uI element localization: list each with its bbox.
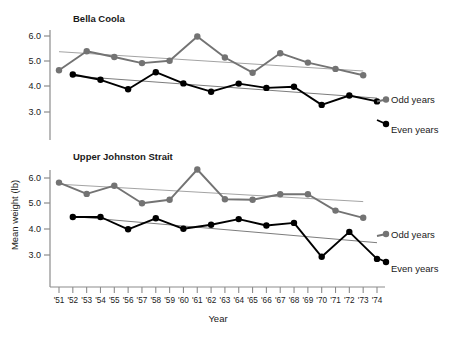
data-point <box>277 50 283 56</box>
legend-marker-odd-bottom-dot <box>383 231 389 237</box>
x-tick-label-73: '73 <box>358 296 369 305</box>
x-tick-label-70: '70 <box>316 296 327 305</box>
data-point <box>139 60 145 66</box>
data-point <box>305 59 311 65</box>
data-point <box>319 102 325 108</box>
data-point <box>332 207 338 213</box>
x-tick-label-56: '56 <box>123 296 134 305</box>
data-point <box>346 92 352 98</box>
data-point <box>97 77 103 83</box>
panel-title-bottom: Upper Johnston Strait <box>73 151 174 162</box>
y-tick-label-6: 6.0 <box>28 31 41 41</box>
data-point <box>277 191 283 197</box>
data-point <box>139 200 145 206</box>
legend-marker-even-bottom-dot <box>383 259 389 265</box>
data-point <box>84 48 90 54</box>
x-tick-label-67: '67 <box>275 296 286 305</box>
data-point <box>346 229 352 235</box>
data-point <box>208 222 214 228</box>
data-point <box>222 196 228 202</box>
y-tick-label-4-bottom: 4.0 <box>28 224 41 234</box>
x-tick-label-74: '74 <box>372 296 383 305</box>
data-point <box>332 66 338 72</box>
x-tick-label-55: '55 <box>109 296 120 305</box>
data-point <box>180 226 186 232</box>
y-tick-label-5: 5.0 <box>28 56 41 66</box>
data-point <box>291 220 297 226</box>
data-point <box>222 54 228 60</box>
data-point <box>291 84 297 90</box>
figure-container: Mean weight (lb) Bella Coola 6.0 5.0 4.0… <box>0 0 464 338</box>
data-point <box>263 222 269 228</box>
y-tick-label-4: 4.0 <box>28 81 41 91</box>
x-tick-label-58: '58 <box>150 296 161 305</box>
legend-marker-odd-top-dot <box>383 96 389 102</box>
data-point <box>125 226 131 232</box>
legend-marker-even-top-dot <box>383 121 389 127</box>
data-point <box>194 166 200 172</box>
data-point <box>70 214 76 220</box>
data-point <box>360 72 366 78</box>
data-point <box>97 214 103 220</box>
x-tick-label-62: '62 <box>206 296 217 305</box>
x-tick-label-72: '72 <box>344 296 355 305</box>
panel-title-top: Bella Coola <box>73 13 125 24</box>
data-point <box>84 191 90 197</box>
x-tick-label-66: '66 <box>261 296 272 305</box>
data-point <box>56 179 62 185</box>
data-point <box>236 80 242 86</box>
x-tick-label-63: '63 <box>220 296 231 305</box>
data-point <box>70 71 76 77</box>
y-axis-label: Mean weight (lb) <box>9 180 20 250</box>
x-tick-label-68: '68 <box>289 296 300 305</box>
x-tick-label-61: '61 <box>192 296 203 305</box>
legend-label-even-top: Even years <box>391 124 439 135</box>
data-point <box>360 215 366 221</box>
x-axis-label: Year <box>208 313 227 324</box>
x-tick-label-54: '54 <box>95 296 106 305</box>
data-point <box>111 54 117 60</box>
y-tick-label-3: 3.0 <box>28 107 41 117</box>
data-point <box>208 89 214 95</box>
x-tick-label-59: '59 <box>164 296 175 305</box>
x-tick-label-52: '52 <box>67 296 78 305</box>
data-point <box>305 191 311 197</box>
y-tick-label-3-bottom: 3.0 <box>28 250 41 260</box>
x-tick-label-64: '64 <box>233 296 244 305</box>
data-point <box>194 33 200 39</box>
data-point <box>56 67 62 73</box>
legend-label-odd-top: Odd years <box>391 94 435 105</box>
x-tick-label-57: '57 <box>137 296 148 305</box>
data-point <box>111 183 117 189</box>
data-point <box>125 86 131 92</box>
legend-label-even-bottom: Even years <box>391 263 439 274</box>
x-tick-label-60: '60 <box>178 296 189 305</box>
chart-svg: Mean weight (lb) Bella Coola 6.0 5.0 4.0… <box>0 0 464 338</box>
legend-label-odd-bottom: Odd years <box>391 229 435 240</box>
x-tick-label-69: '69 <box>303 296 314 305</box>
data-point <box>153 215 159 221</box>
data-point <box>319 254 325 260</box>
data-point <box>153 69 159 75</box>
data-point <box>249 197 255 203</box>
x-tick-label-71: '71 <box>330 296 341 305</box>
y-tick-label-6-bottom: 6.0 <box>28 173 41 183</box>
data-point <box>166 58 172 64</box>
data-point <box>263 85 269 91</box>
x-tick-label-53: '53 <box>81 296 92 305</box>
x-tick-label-51: '51 <box>54 296 65 305</box>
data-point <box>166 197 172 203</box>
data-point <box>236 216 242 222</box>
data-point <box>249 70 255 76</box>
y-tick-label-5-bottom: 5.0 <box>28 198 41 208</box>
y-axis-label-text: Mean weight (lb) <box>9 180 20 250</box>
data-point <box>180 80 186 86</box>
x-tick-label-65: '65 <box>247 296 258 305</box>
